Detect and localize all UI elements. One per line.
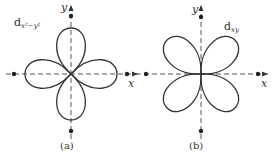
panel-a-dot-top (69, 14, 73, 18)
panel-a-dot-left (12, 72, 16, 76)
panel-b-x-label: x (261, 77, 267, 90)
panel-b-orbital-letter: d (224, 20, 231, 33)
panel-a-caption: (a) (60, 140, 74, 151)
panel-b-dot-top (199, 15, 203, 19)
panel-b-orbital-subscript: xy (231, 26, 239, 34)
panel-a-dot-right (125, 72, 129, 76)
panel-a-dot-bottom (69, 129, 73, 133)
panel-b-caption: (b) (189, 140, 203, 151)
panel-b-dot-left (144, 72, 148, 76)
panel-b-dot-right (256, 72, 260, 76)
panel-b-y-label: y (192, 3, 198, 16)
panel-a-x-label: x (128, 77, 134, 90)
panel-b-graphic (133, 5, 269, 142)
panel-b-orbital-label: dxy (224, 20, 239, 34)
panel-b-x-arrow-icon (262, 72, 268, 77)
panel-b-dot-bottom (199, 129, 203, 133)
panel-a-y-label: y (61, 1, 67, 14)
panel-a-orbital-label: dx²−y² (14, 16, 40, 30)
panel-a-orbital-letter: d (14, 16, 21, 29)
panel-a-y-arrow-icon (69, 5, 74, 11)
panel-b-y-arrow-icon (199, 5, 204, 11)
panel-a-orbital-subscript: x²−y² (21, 22, 40, 30)
